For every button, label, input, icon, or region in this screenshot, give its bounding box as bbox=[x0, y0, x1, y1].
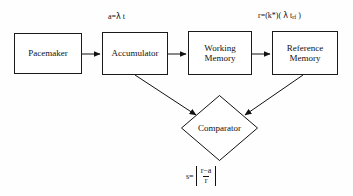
node-working-memory-label: Working Memory bbox=[202, 43, 237, 64]
equation-comparator-lhs: s= bbox=[186, 172, 194, 181]
node-pacemaker-label: Pacemaker bbox=[26, 48, 69, 58]
fraction: r−a r bbox=[199, 167, 214, 185]
equation-accumulator-rhs: t bbox=[121, 12, 125, 21]
equation-comparator: s= r−a r bbox=[186, 166, 218, 186]
equation-accumulator-lhs: a= bbox=[108, 12, 116, 21]
node-reference-memory[interactable]: Reference Memory bbox=[272, 31, 338, 75]
node-reference-memory-label: Reference Memory bbox=[285, 43, 325, 64]
node-comparator[interactable]: Comparator bbox=[181, 95, 258, 161]
equation-reference-memory: r=(k*)( λ trf ) bbox=[258, 11, 301, 20]
equation-reference-prefix: r=(k*)( bbox=[258, 11, 283, 20]
diagram-connectors bbox=[0, 0, 353, 196]
diagram-canvas: Pacemaker Accumulator Working Memory Ref… bbox=[0, 0, 353, 196]
node-accumulator[interactable]: Accumulator bbox=[102, 32, 168, 75]
absolute-value-bar-left bbox=[196, 166, 197, 186]
node-working-memory[interactable]: Working Memory bbox=[188, 31, 252, 75]
absolute-value-bar-right bbox=[215, 166, 216, 186]
node-pacemaker[interactable]: Pacemaker bbox=[14, 33, 82, 74]
fraction-denominator: r bbox=[203, 176, 210, 185]
equation-reference-suffix: ) bbox=[296, 11, 301, 20]
equation-accumulator: a=λ t bbox=[108, 12, 125, 21]
fraction-numerator: r−a bbox=[199, 167, 214, 175]
node-comparator-label: Comparator bbox=[198, 123, 241, 133]
node-accumulator-label: Accumulator bbox=[110, 48, 161, 58]
